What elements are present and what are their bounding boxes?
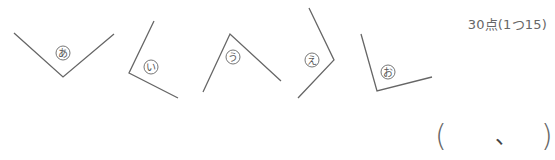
angle-5: お bbox=[361, 34, 432, 91]
angle-lines bbox=[203, 34, 281, 92]
angle-lines bbox=[298, 8, 334, 98]
angle-label: う bbox=[228, 52, 238, 63]
angle-3: う bbox=[203, 34, 281, 92]
angle-2: い bbox=[129, 21, 178, 98]
angle-lines bbox=[361, 34, 432, 91]
score-label: 30点(1つ15) bbox=[468, 14, 547, 33]
angle-lines bbox=[129, 21, 178, 98]
open-paren: ( bbox=[435, 120, 447, 152]
angle-label: あ bbox=[58, 48, 68, 59]
close-paren: ) bbox=[541, 120, 553, 152]
answer-box[interactable]: ( 、 ) bbox=[435, 120, 555, 156]
angle-1: あ bbox=[14, 33, 114, 77]
angle-label: お bbox=[383, 67, 393, 78]
answer-separator: 、 bbox=[495, 120, 517, 152]
angle-label: え bbox=[307, 55, 317, 66]
angle-4: え bbox=[298, 8, 334, 98]
angle-label: い bbox=[146, 62, 156, 73]
